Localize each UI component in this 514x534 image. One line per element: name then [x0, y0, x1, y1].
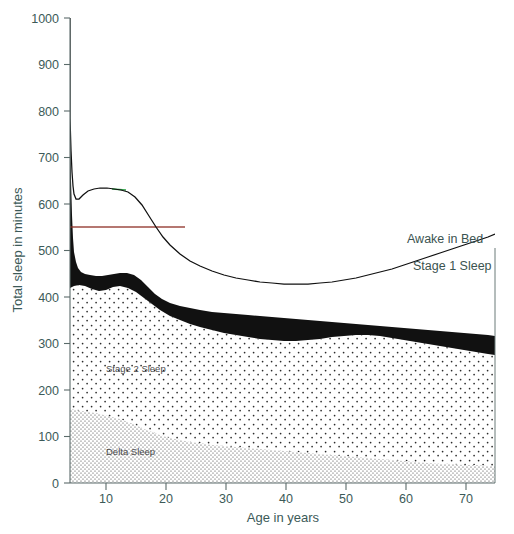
x-tick-20: 20: [159, 492, 173, 506]
y-tick-600: 600: [38, 198, 59, 212]
x-tick-10: 10: [99, 492, 113, 506]
label-delta-sleep: Delta Sleep: [106, 446, 155, 457]
y-tick-200: 200: [38, 384, 59, 398]
y-tick-300: 300: [38, 337, 59, 351]
y-tick-700: 700: [38, 151, 59, 165]
y-tick-400: 400: [38, 291, 59, 305]
label-stage-1-sleep: Stage 1 Sleep: [413, 259, 492, 273]
y-tick-800: 800: [38, 105, 59, 119]
x-tick-30: 30: [219, 492, 233, 506]
sleep-stages-chart: 1000 900 800 700 600 500 400 300 200 100…: [0, 0, 514, 534]
label-stage-2-sleep: Stage 2 Sleep: [106, 363, 166, 374]
y-axis-title: Total sleep in minutes: [10, 187, 25, 313]
y-tick-1000: 1000: [31, 12, 59, 26]
y-tick-900: 900: [38, 58, 59, 72]
x-tick-60: 60: [399, 492, 413, 506]
x-axis-title: Age in years: [247, 510, 320, 525]
y-tick-500: 500: [38, 244, 59, 258]
label-awake-in-bed: Awake in Bed: [407, 232, 483, 246]
y-tick-100: 100: [38, 430, 59, 444]
x-tick-70: 70: [459, 492, 473, 506]
y-tick-0: 0: [52, 477, 59, 491]
x-tick-50: 50: [339, 492, 353, 506]
x-tick-40: 40: [279, 492, 293, 506]
